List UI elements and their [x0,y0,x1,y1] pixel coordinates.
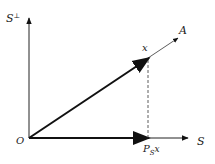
vector-x [29,58,149,138]
projection-diagram: S⊥ A x O S PSx [0,0,215,164]
a-label: A [178,24,187,37]
s-label: S [197,135,205,148]
a-line [148,38,178,58]
projection-label: PSx [142,143,160,157]
s-perp-label: S⊥ [6,12,20,25]
origin-label: O [16,135,24,146]
x-label: x [142,42,148,53]
